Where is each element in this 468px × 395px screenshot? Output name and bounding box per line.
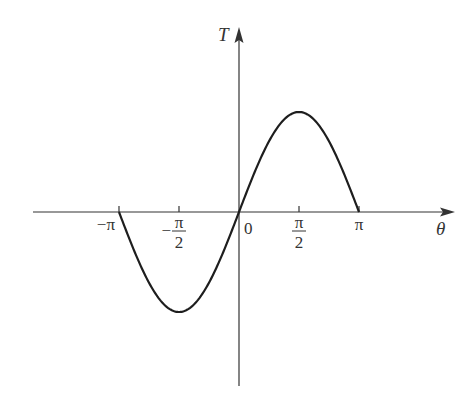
fraction-denominator: 2	[175, 233, 184, 252]
x-tick-label-fraction: π2−	[161, 213, 186, 252]
fraction-numerator: π	[295, 213, 304, 232]
fraction-sign: −	[161, 221, 171, 240]
fraction-numerator: π	[175, 213, 184, 232]
fraction-denominator: 2	[295, 233, 304, 252]
y-axis-label: T	[218, 24, 230, 45]
x-tick-label: π	[355, 215, 364, 234]
x-tick-label-fraction: π2	[292, 213, 306, 252]
chart-canvas: −ππ2−0π2π θ T	[0, 0, 468, 395]
x-tick-label: 0	[244, 219, 253, 238]
x-axis-label: θ	[436, 218, 445, 239]
x-tick-label: −π	[97, 215, 116, 234]
